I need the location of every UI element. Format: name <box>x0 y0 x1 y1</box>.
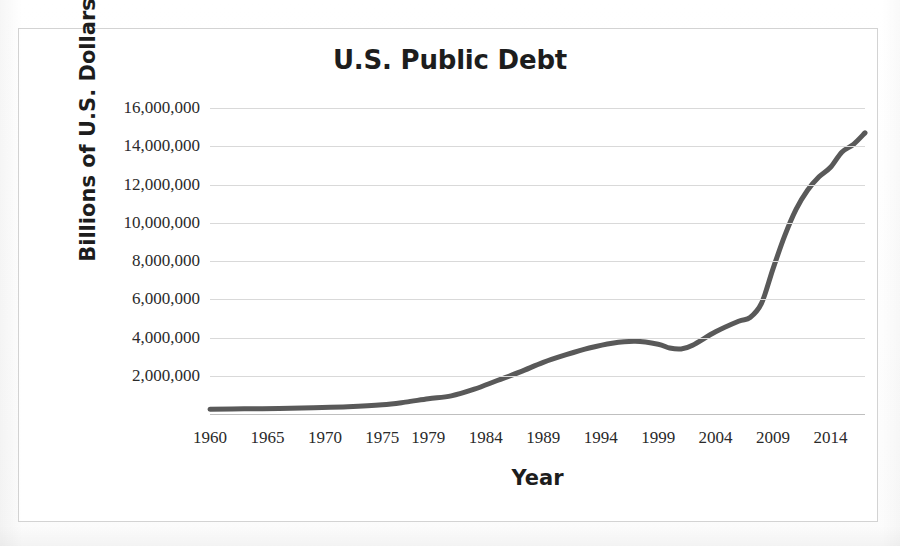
x-axis-baseline <box>210 414 865 415</box>
x-axis-tick-label: 1984 <box>469 428 503 448</box>
y-axis-tick-label: 6,000,000 <box>60 289 200 309</box>
x-axis-tick-label: 1960 <box>193 428 227 448</box>
gridline <box>210 376 865 377</box>
debt-line-path <box>210 133 865 409</box>
chart-title: U.S. Public Debt <box>0 45 900 75</box>
x-axis-tick-label: 1970 <box>308 428 342 448</box>
gridline <box>210 108 865 109</box>
gridline <box>210 146 865 147</box>
x-axis-tick-label: 2009 <box>756 428 790 448</box>
y-axis-tick-labels: 16,000,00014,000,00012,000,00010,000,000… <box>60 108 200 414</box>
gridline <box>210 338 865 339</box>
x-axis-tick-label: 1999 <box>641 428 675 448</box>
x-axis-tick-label: 1989 <box>526 428 560 448</box>
x-axis-tick-label: 2014 <box>814 428 848 448</box>
plot-area <box>210 108 865 414</box>
y-axis-tick-label: 8,000,000 <box>60 251 200 271</box>
y-axis-tick-label: 4,000,000 <box>60 328 200 348</box>
gridline <box>210 261 865 262</box>
y-axis-tick-label: 12,000,000 <box>60 175 200 195</box>
y-axis-tick-label: 10,000,000 <box>60 213 200 233</box>
x-axis-tick-label: 1979 <box>411 428 445 448</box>
gridline <box>210 223 865 224</box>
scanned-page: U.S. Public Debt Billions of U.S. Dollar… <box>0 0 900 546</box>
y-axis-tick-label: 2,000,000 <box>60 366 200 386</box>
x-axis-tick-labels: 1960196519701975197919841989199419992004… <box>210 428 865 454</box>
x-axis-title: Year <box>210 466 865 490</box>
y-axis-tick-label: 16,000,000 <box>60 98 200 118</box>
cut-off-caption <box>70 530 860 546</box>
x-axis-tick-label: 1965 <box>250 428 284 448</box>
x-axis-tick-label: 1994 <box>584 428 618 448</box>
x-axis-tick-label: 2004 <box>699 428 733 448</box>
y-axis-tick-label: 14,000,000 <box>60 136 200 156</box>
gridline <box>210 185 865 186</box>
gridline <box>210 299 865 300</box>
x-axis-tick-label: 1975 <box>365 428 399 448</box>
